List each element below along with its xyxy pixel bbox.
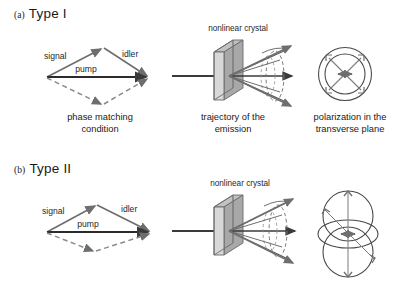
phase-matching-diagram-a: signal idler pump bbox=[44, 48, 147, 104]
polarization-diagram-a bbox=[319, 48, 372, 101]
emission-diagram-b: nonlinear crystal bbox=[172, 179, 295, 263]
panel-type-i: (a) Type I bbox=[0, 0, 410, 155]
signal-label-b: signal bbox=[42, 206, 65, 216]
panel-type-ii: (b) Type II signal idler pump nonlinear … bbox=[0, 155, 410, 291]
nonlinear-crystal-label-b: nonlinear crystal bbox=[210, 179, 270, 188]
caption-line-2: emission bbox=[168, 124, 298, 136]
idler-label-b: idler bbox=[121, 204, 137, 214]
idler-label-a: idler bbox=[122, 49, 138, 59]
phase-matching-diagram-b: signal idler pump bbox=[42, 204, 149, 251]
emission-diagram-a: nonlinear crystal bbox=[172, 24, 292, 106]
caption-trajectory-a: trajectory of the emission bbox=[168, 112, 298, 135]
panel-b-graphics: signal idler pump nonlinear crystal bbox=[0, 155, 410, 291]
polarization-diagram-b bbox=[318, 191, 378, 277]
caption-line-1: polarization in the bbox=[290, 112, 410, 124]
nonlinear-crystal-label-a: nonlinear crystal bbox=[208, 24, 268, 33]
caption-polarization-a: polarization in the transverse plane bbox=[290, 112, 410, 135]
caption-line-2: transverse plane bbox=[290, 124, 410, 136]
pump-label-b: pump bbox=[77, 219, 99, 229]
caption-line-1: phase matching bbox=[30, 112, 170, 124]
signal-label-a: signal bbox=[44, 51, 67, 61]
caption-phase-matching-a: phase matching condition bbox=[30, 112, 170, 135]
pump-label-a: pump bbox=[75, 64, 97, 74]
caption-line-2: condition bbox=[30, 124, 170, 136]
caption-line-1: trajectory of the bbox=[168, 112, 298, 124]
